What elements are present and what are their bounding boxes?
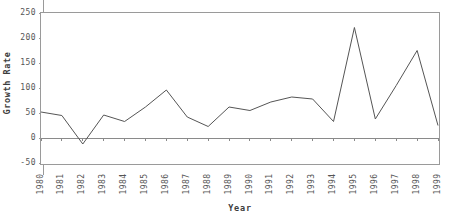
x-axis-tick-label-text: 1984 — [121, 174, 129, 195]
x-axis-tick-label: 1999 — [421, 167, 450, 201]
x-axis-tick-label-text: 1983 — [100, 174, 108, 195]
y-axis-tick-label: 150 — [10, 59, 36, 67]
y-axis-tick-label: 50 — [10, 109, 36, 117]
y-axis-tick-label: 100 — [10, 84, 36, 92]
x-axis-tick-label-text: 1981 — [58, 174, 66, 195]
y-axis-tick-labels: 250200150100500-50 — [10, 0, 36, 175]
x-axis-tick-label-text: 1992 — [288, 174, 296, 195]
x-axis-tick-label-text: 1989 — [225, 174, 233, 195]
x-axis-tick-label-text: 1993 — [309, 174, 317, 195]
x-axis-tick-label-text: 1999 — [434, 174, 442, 195]
y-axis-tick-label: 0 — [10, 134, 36, 142]
y-axis-tick-label: -50 — [10, 159, 36, 167]
x-axis-title: Year — [40, 203, 440, 213]
x-axis-tick-label-text: 1982 — [79, 174, 87, 195]
x-axis-tick-label-text: 1997 — [392, 174, 400, 195]
x-axis-tick-label-text: 1980 — [37, 174, 45, 195]
x-axis-tick-label-text: 1995 — [350, 174, 358, 195]
x-axis-tick-labels: 1980198119821983198419851986198719881989… — [0, 167, 450, 201]
x-axis-tick-label-text: 1996 — [371, 174, 379, 195]
x-axis-tick-label-text: 1998 — [413, 174, 421, 195]
x-axis-tick-label-text: 1986 — [162, 174, 170, 195]
x-axis-tick-label-text: 1991 — [267, 174, 275, 195]
y-axis-tick-label: 250 — [10, 9, 36, 17]
x-axis-tick-label-text: 1985 — [141, 174, 149, 195]
x-axis-tick-label-text: 1988 — [204, 174, 212, 195]
plot-area — [40, 12, 440, 165]
y-axis-tick-label: 200 — [10, 34, 36, 42]
growth-rate-line-chart: Growth Rate 250200150100500-50 198019811… — [0, 0, 450, 218]
x-axis-tick-label-text: 1990 — [246, 174, 254, 195]
x-axis-tick-label-text: 1994 — [330, 174, 338, 195]
x-axis-tick-label-text: 1987 — [183, 174, 191, 195]
data-series-line — [41, 28, 438, 145]
plot-svg — [41, 13, 439, 164]
